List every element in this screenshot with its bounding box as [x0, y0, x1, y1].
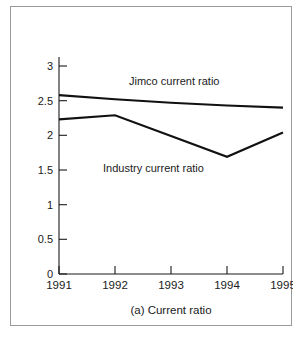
y-axis-ticks [59, 66, 67, 274]
figure-panel: 3 2.5 2 1.5 1 0.5 0 1991 1992 1993 1994 … [10, 6, 292, 326]
y-tick-label-1: 1 [47, 199, 53, 211]
series-label-industry: Industry current ratio [103, 162, 204, 174]
x-axis-ticks [59, 266, 283, 274]
y-tick-label-1-5: 1.5 [38, 164, 53, 176]
y-tick-label-3: 3 [47, 60, 53, 72]
x-tick-label-1995: 1995 [270, 279, 293, 291]
x-tick-label-1992: 1992 [102, 279, 128, 291]
series-line-industry [59, 115, 283, 157]
x-tick-label-1993: 1993 [158, 279, 184, 291]
y-tick-label-2: 2 [47, 129, 53, 141]
series-line-jimco [59, 95, 283, 107]
current-ratio-line-chart: 3 2.5 2 1.5 1 0.5 0 1991 1992 1993 1994 … [11, 7, 293, 327]
y-tick-label-2-5: 2.5 [38, 95, 53, 107]
x-tick-label-1991: 1991 [46, 279, 72, 291]
x-tick-label-1994: 1994 [214, 279, 240, 291]
series-label-jimco: Jimco current ratio [129, 75, 219, 87]
chart-caption: (a) Current ratio [130, 304, 211, 316]
y-tick-label-0-5: 0.5 [38, 233, 53, 245]
